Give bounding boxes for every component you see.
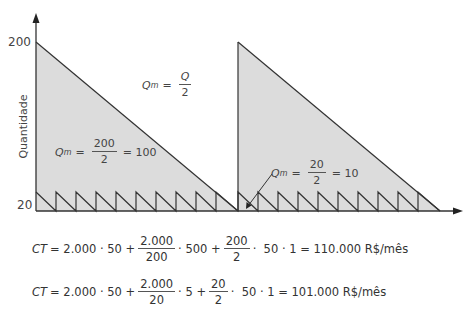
x-axis-arrow-icon: [453, 208, 463, 215]
annotation-small-qm: Qm = 20 2 = 10: [271, 158, 358, 188]
cost-formula-1: CT = 2.000 · 50 + 2.000 200 · 500 + 200 …: [32, 234, 408, 264]
y-tick-20: 20: [17, 198, 32, 212]
y-axis-arrow-icon: [33, 13, 40, 23]
y-tick-200: 200: [8, 35, 31, 49]
cost-formula-2: CT = 2.000 · 50 + 2.000 20 · 5 + 20 2 · …: [32, 277, 386, 307]
y-axis-label: Quantidade: [17, 92, 30, 162]
annotation-general-qm: Qm = Q 2: [142, 70, 194, 100]
annotation-big-qm: Qm = 200 2 = 100: [55, 137, 156, 167]
